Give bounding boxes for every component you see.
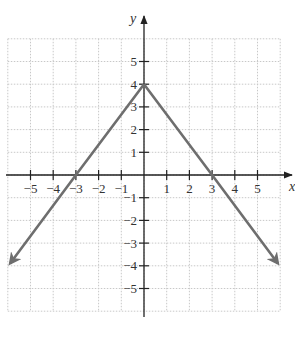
x-tick-label: −5 [24, 181, 38, 196]
y-tick-label: 2 [131, 122, 138, 137]
x-tick-label: 2 [186, 181, 193, 196]
x-tick-label: 4 [232, 181, 239, 196]
x-axis-label: x [288, 179, 295, 194]
y-tick-label: 4 [131, 77, 138, 92]
y-axis-label: y [128, 11, 137, 26]
x-tick-label: 5 [254, 181, 261, 196]
y-tick-label: −3 [123, 236, 137, 251]
x-tick-label: −4 [46, 181, 60, 196]
y-tick-label: −1 [123, 190, 137, 205]
x-tick-label: 3 [209, 181, 216, 196]
y-tick-label: −5 [123, 281, 137, 296]
x-tick-label: −2 [92, 181, 106, 196]
y-tick-label: 1 [131, 145, 138, 160]
y-tick-label: −2 [123, 213, 137, 228]
y-tick-label: 5 [131, 54, 138, 69]
y-tick-label: −4 [123, 258, 137, 273]
coordinate-plane: −5−4−3−2−11234554321−1−2−3−4−5 x y [0, 0, 295, 349]
x-tick-label: 1 [163, 181, 170, 196]
